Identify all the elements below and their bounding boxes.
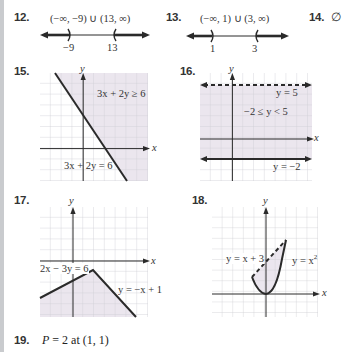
problem-18-x-axis-label: x [322,287,327,298]
problem-16-number: 16. [180,65,195,77]
problem-18-curve-label-exponent: 2 [314,253,318,261]
problem-19-answer: P = 2 at (1, 1) [42,333,109,348]
problem-17-graph [40,207,148,317]
problem-17-number: 17. [14,194,29,206]
problem-13-number-line [0,0,345,60]
problem-15-y-axis-label: y [80,63,85,74]
problem-17-line1-label: 2x − 3y = 6 [40,263,89,274]
problem-18-curve-label-base: y = x [292,255,314,266]
problem-18-line-label: y = x + 3 [226,253,264,264]
problem-15-line-label: 3x + 2y = 6 [64,160,113,171]
problem-18-number: 18. [192,194,207,206]
problem-16-upper-line-label: y = 5 [276,87,298,98]
problem-18-y-axis-label: y [263,195,268,206]
problem-14-empty-set: ∅ [331,10,341,25]
problem-15-x-axis-label: x [152,142,157,153]
problem-17-x-axis-label: x [151,255,156,266]
problem-15-number: 15. [14,65,29,77]
problem-19-number: 19. [14,334,29,346]
problem-16-region-label: −2 ≤ y < 5 [244,106,288,117]
problem-17-y-axis-label: y [69,195,74,206]
problem-16-lower-line-label: y = −2 [273,161,301,172]
problem-19-answer-text: = 2 at (1, 1) [49,333,108,347]
problem-13-tick-right: 3 [252,43,257,54]
problem-15-region-label: 3x + 2y ≥ 6 [97,88,145,99]
problem-16-x-axis-label: x [314,132,319,143]
problem-13-tick-left: 1 [210,43,215,54]
problem-14-number: 14. [309,11,324,23]
problem-18-curve-label: y = x2 [292,253,317,266]
problem-17-line2-label: y = −x + 1 [118,284,162,295]
problem-16-y-axis-label: y [229,63,234,74]
